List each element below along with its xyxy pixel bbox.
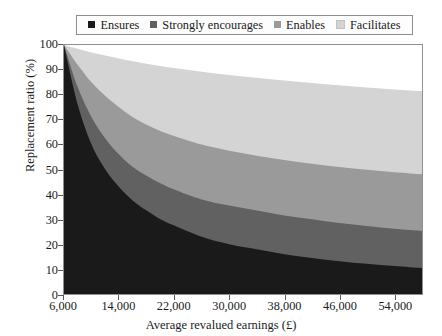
x-axis-tick-mark	[63, 295, 64, 300]
x-axis-tick-mark	[229, 295, 230, 300]
x-axis-tick-mark	[395, 295, 396, 300]
y-axis-tick-label: 100	[40, 38, 58, 50]
x-axis-tick-label: 6,000	[49, 300, 77, 312]
y-axis-tick-label: 90	[46, 63, 58, 75]
y-axis-tick-label: 10	[46, 264, 58, 276]
x-axis-tick-labels: 6,00014,00022,00030,00038,00046,00054,00…	[0, 300, 442, 316]
legend-item: Facilitates	[336, 19, 401, 31]
x-axis-tick-mark	[340, 295, 341, 300]
legend-swatch-icon	[274, 21, 281, 28]
x-axis-tick-label: 22,000	[157, 300, 191, 312]
legend-swatch-icon	[150, 21, 157, 28]
y-axis-tick-label: 60	[46, 138, 58, 150]
legend-label: Enables	[286, 19, 325, 31]
x-axis-tick-label: 54,000	[378, 300, 412, 312]
y-axis-tick-label: 50	[46, 163, 58, 175]
x-axis-tick-label: 38,000	[268, 300, 302, 312]
legend-label: Facilitates	[350, 19, 401, 31]
y-axis-tick-mark	[58, 170, 63, 171]
y-axis-tick-label: 80	[46, 88, 58, 100]
plot-area	[63, 44, 423, 295]
y-axis-tick-mark	[58, 220, 63, 221]
y-axis-tick-mark	[58, 119, 63, 120]
legend-label: Ensures	[100, 19, 139, 31]
x-axis-tick-label: 14,000	[101, 300, 135, 312]
y-axis-tick-label: 20	[46, 239, 58, 251]
y-axis-tick-mark	[58, 195, 63, 196]
legend-swatch-icon	[336, 20, 345, 29]
chart-figure: EnsuresStrongly encouragesEnablesFacilit…	[0, 0, 442, 336]
x-axis-tick-mark	[174, 295, 175, 300]
legend-item: Ensures	[88, 19, 139, 31]
x-axis-title: Average revalued earnings (£)	[0, 318, 442, 333]
legend-item: Enables	[274, 19, 325, 31]
y-axis-tick-mark	[58, 94, 63, 95]
legend-label: Strongly encourages	[162, 19, 263, 31]
y-axis-tick-mark	[58, 245, 63, 246]
y-axis-tick-label: 70	[46, 113, 58, 125]
y-axis-tick-mark	[58, 44, 63, 45]
chart-legend: EnsuresStrongly encouragesEnablesFacilit…	[76, 15, 413, 35]
x-axis-tick-mark	[285, 295, 286, 300]
legend-item: Strongly encourages	[150, 19, 263, 31]
y-axis-tick-label: 40	[46, 188, 58, 200]
y-axis-tick-label: 30	[46, 214, 58, 226]
legend-swatch-icon	[88, 21, 95, 28]
stacked-area-plot	[64, 45, 422, 294]
y-axis-tick-mark	[58, 270, 63, 271]
x-axis-tick-label: 30,000	[212, 300, 246, 312]
x-axis-tick-mark	[118, 295, 119, 300]
x-axis-tick-label: 46,000	[323, 300, 357, 312]
y-axis-tick-mark	[58, 144, 63, 145]
y-axis-tick-mark	[58, 69, 63, 70]
y-axis-title: Replacement ratio (%)	[23, 0, 38, 241]
